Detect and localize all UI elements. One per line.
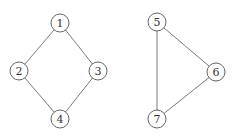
- node-label: 6: [213, 66, 220, 79]
- edge-5-6: [157, 22, 216, 72]
- node-label: 1: [57, 17, 64, 30]
- node-3: 3: [89, 62, 107, 80]
- node-label: 4: [57, 113, 64, 126]
- node-label: 7: [154, 113, 161, 126]
- node-1: 1: [51, 14, 69, 32]
- graph-diagram: 1234567: [0, 0, 236, 137]
- edge-2-4: [19, 71, 60, 119]
- node-label: 3: [95, 65, 102, 78]
- node-2: 2: [10, 62, 28, 80]
- edge-1-2: [19, 23, 60, 71]
- node-6: 6: [207, 63, 225, 81]
- node-label: 2: [16, 65, 23, 78]
- node-4: 4: [51, 110, 69, 128]
- cycle-graph-4: 1234: [10, 14, 107, 128]
- node-7: 7: [148, 110, 166, 128]
- node-label: 5: [154, 16, 161, 29]
- node-5: 5: [148, 13, 166, 31]
- edge-6-7: [157, 72, 216, 119]
- triangle-graph: 567: [148, 13, 225, 128]
